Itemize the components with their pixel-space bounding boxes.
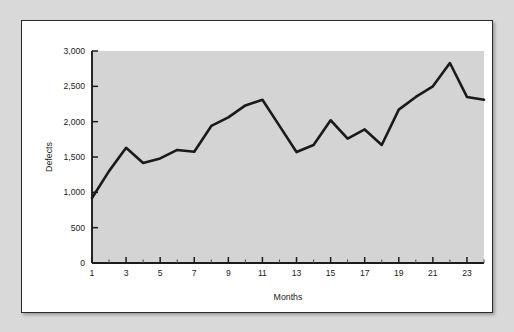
x-tick-label: 9 — [226, 268, 231, 278]
y-tick-label: 0 — [80, 258, 85, 268]
y-tick-label: 3,000 — [63, 46, 85, 56]
plot-background — [92, 51, 484, 263]
x-tick-label: 23 — [462, 268, 472, 278]
x-axis-title: Months — [274, 292, 303, 302]
x-tick-label: 13 — [292, 268, 302, 278]
x-tick-label: 7 — [192, 268, 197, 278]
x-tick-label: 3 — [124, 268, 129, 278]
x-tick-label: 11 — [258, 268, 267, 278]
y-tick-label: 500 — [71, 223, 86, 233]
x-tick-label: 15 — [326, 268, 336, 278]
x-tick-label: 19 — [394, 268, 404, 278]
line-chart: 05001,0001,5002,0002,5003,000 1357911131… — [22, 21, 492, 312]
x-axis-tick-labels: 1357911131517192123 — [90, 268, 472, 278]
x-tick-label: 17 — [360, 268, 370, 278]
y-tick-label: 1,000 — [63, 187, 85, 197]
x-tick-label: 5 — [158, 268, 163, 278]
y-axis-title: Defects — [44, 141, 54, 171]
chart-canvas: 05001,0001,5002,0002,5003,000 1357911131… — [22, 21, 494, 314]
y-axis-tick-labels: 05001,0001,5002,0002,5003,000 — [63, 46, 85, 268]
y-tick-label: 1,500 — [63, 152, 85, 162]
figure-card: 05001,0001,5002,0002,5003,000 1357911131… — [21, 20, 493, 313]
y-tick-label: 2,500 — [63, 81, 85, 91]
x-tick-label: 21 — [428, 268, 438, 278]
y-tick-label: 2,000 — [63, 117, 85, 127]
x-tick-label: 1 — [90, 268, 95, 278]
